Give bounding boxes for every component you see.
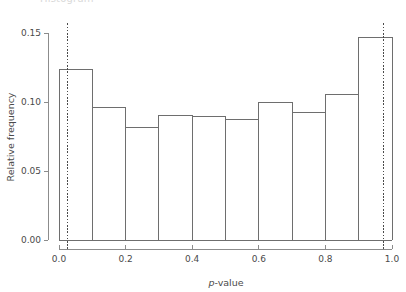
histogram-bar	[259, 103, 292, 240]
histogram-bar	[92, 107, 125, 240]
histogram-figure: Histogram 0.000.050.100.15 0.00.20.40.60…	[0, 0, 406, 292]
p-value-histogram-plot: 0.000.050.100.15 0.00.20.40.60.81.0 Rela…	[0, 0, 406, 292]
histogram-bars	[59, 38, 392, 240]
y-axis-tick-label: 0.15	[21, 28, 41, 38]
x-axis: 0.00.20.40.60.81.0	[52, 245, 400, 264]
x-axis-tick-label: 0.8	[318, 254, 333, 264]
x-axis-tick-label: 0.0	[52, 254, 67, 264]
x-axis-title-suffix: -value	[214, 277, 243, 288]
histogram-bar	[126, 128, 159, 240]
x-axis-title: p-value	[207, 277, 243, 288]
x-axis-title-italic-p: p	[207, 277, 214, 288]
clipped-header-text: Histogram	[40, 0, 94, 4]
histogram-bar	[59, 70, 92, 240]
x-axis-tick-label: 0.6	[252, 254, 267, 264]
histogram-bar	[325, 95, 358, 240]
y-axis-tick-label: 0.10	[21, 97, 41, 107]
histogram-bar	[292, 113, 325, 240]
y-axis-title: Relative frequency	[5, 92, 16, 181]
y-axis-tick-label: 0.05	[21, 166, 41, 176]
histogram-bar	[359, 38, 392, 240]
x-axis-tick-label: 0.2	[118, 254, 132, 264]
x-axis-tick-label: 0.4	[185, 254, 200, 264]
histogram-bar	[226, 120, 259, 240]
histogram-bar	[192, 117, 225, 240]
y-axis-tick-label: 0.00	[21, 235, 41, 245]
y-axis: 0.000.050.100.15	[21, 28, 48, 245]
x-axis-tick-label: 1.0	[385, 254, 400, 264]
histogram-bar	[159, 115, 192, 240]
